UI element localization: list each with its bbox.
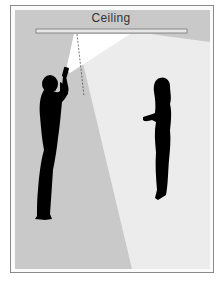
ceiling-label: Ceiling: [82, 11, 140, 25]
ceiling-bar: [36, 29, 187, 33]
bounce-lighting-diagram: [0, 0, 222, 286]
